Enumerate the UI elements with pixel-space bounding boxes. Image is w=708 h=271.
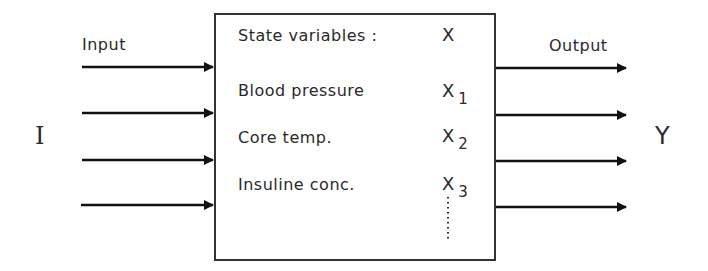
variable-name: Core temp. [238, 128, 332, 147]
variable-name: Blood pressure [238, 81, 364, 100]
state-symbol: X [442, 24, 454, 45]
input-label: Input [82, 35, 126, 54]
input-symbol: I [35, 122, 44, 150]
variable-symbol: X3 [442, 173, 468, 201]
state-variables-title: State variables : [238, 26, 377, 45]
output-symbol: Y [655, 122, 670, 150]
output-arrows [496, 68, 626, 207]
variable-symbol: X1 [442, 80, 468, 108]
variable-symbol: X2 [442, 125, 468, 153]
variable-name: Insuline conc. [238, 175, 355, 194]
input-arrows [81, 67, 213, 205]
output-label: Output [549, 36, 608, 55]
